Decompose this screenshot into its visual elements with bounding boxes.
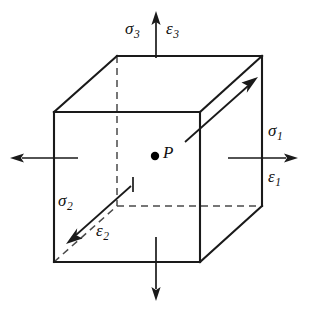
- label-epsilon-3: ε3: [166, 20, 179, 40]
- arrow-sigma2-upright: [185, 77, 258, 142]
- arrow-sigma3-up: [151, 11, 160, 58]
- label-point-p: P: [163, 144, 173, 161]
- label-sigma-3: σ3: [125, 20, 140, 40]
- label-epsilon-1-symbol: ε: [268, 167, 275, 186]
- cube-diagram-svg: [0, 0, 309, 315]
- label-epsilon-3-subscript: 3: [173, 28, 179, 40]
- label-sigma-2: σ2: [58, 192, 73, 212]
- visible-edges-group: [54, 56, 262, 262]
- arrow-sigma3-down-head: [151, 287, 160, 301]
- edge-top-left-depth: [54, 56, 117, 112]
- label-sigma-2-subscript: 2: [66, 200, 72, 212]
- label-epsilon-2-subscript: 2: [103, 230, 109, 242]
- label-sigma-3-subscript: 3: [133, 28, 139, 40]
- label-epsilon-1: ε1: [268, 168, 281, 188]
- label-epsilon-3-symbol: ε: [166, 19, 173, 38]
- arrow-sigma3-down: [151, 237, 160, 301]
- hidden-edges-group: [54, 56, 262, 262]
- arrow-sigma2-upright-shaft: [185, 86, 248, 142]
- arrow-sigma1-left-head: [10, 153, 24, 162]
- label-sigma-1-subscript: 1: [276, 130, 282, 142]
- edge-bottom-right-depth: [200, 206, 262, 262]
- point-p-dot: [151, 152, 159, 160]
- label-epsilon-2: ε2: [96, 222, 109, 242]
- stress-element-figure: σ3 ε3 σ1 ε1 σ2 ε2 P: [0, 0, 309, 315]
- arrow-sigma1-left: [10, 153, 78, 162]
- arrow-sigma1-right-head: [284, 153, 298, 162]
- label-epsilon-1-subscript: 1: [275, 176, 281, 188]
- label-epsilon-2-symbol: ε: [96, 221, 103, 240]
- label-sigma-1: σ1: [268, 122, 283, 142]
